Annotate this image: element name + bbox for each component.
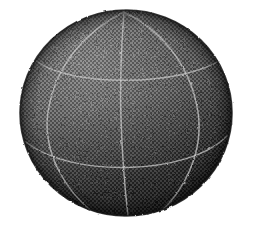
sphere-render-canvas: Shaded Wireframe Sphere Render sphere di… [0, 0, 255, 231]
rim-shadow [20, 10, 232, 216]
render-viewport: Shaded Wireframe Sphere Render sphere di… [0, 0, 255, 231]
